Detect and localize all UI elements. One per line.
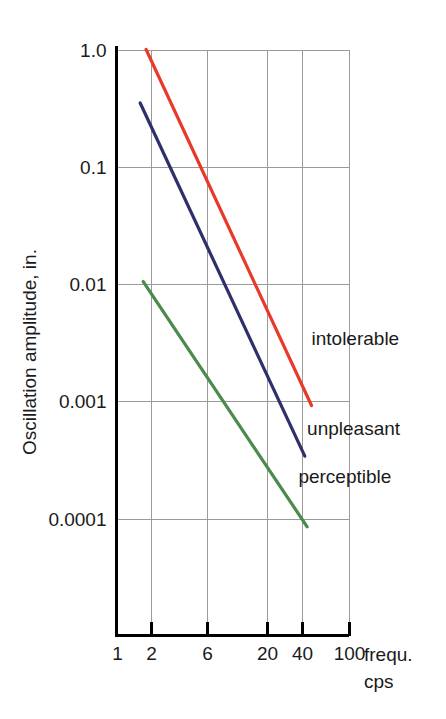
y-axis-tick-labels: 1.00.10.010.0010.0001 [48,40,106,530]
series-lines-group [140,50,311,527]
y-tick-label: 0.01 [70,274,107,295]
x-axis-tick-labels: 1262040100 [112,643,365,664]
x-axis-tick-marks [152,622,350,636]
x-axis-title-line1: frequ. [364,644,413,665]
y-tick-label: 0.1 [80,157,106,178]
y-tick-label: 0.0001 [48,509,106,530]
series-label-intolerable: intolerable [312,328,400,349]
x-axis-title-line2: cps [364,671,394,692]
chart-container: 1262040100 1.00.10.010.0010.0001 intoler… [0,0,446,719]
y-tick-label: 1.0 [80,40,106,61]
y-axis-title: Oscillation amplitude, in. [19,249,40,455]
x-tick-label: 1 [112,643,123,664]
series-label-perceptible: perceptible [298,466,391,487]
series-line-intolerable [146,50,311,406]
x-tick-label: 20 [257,643,278,664]
oscillation-amplitude-chart: 1262040100 1.00.10.010.0010.0001 intoler… [0,0,446,719]
x-tick-label: 100 [334,643,366,664]
series-line-perceptible [143,282,307,527]
series-label-unpleasant: unpleasant [307,418,401,439]
x-tick-label: 2 [146,643,157,664]
series-line-unpleasant [140,103,305,456]
x-tick-label: 40 [292,643,313,664]
y-tick-label: 0.001 [59,391,107,412]
x-tick-label: 6 [202,643,213,664]
